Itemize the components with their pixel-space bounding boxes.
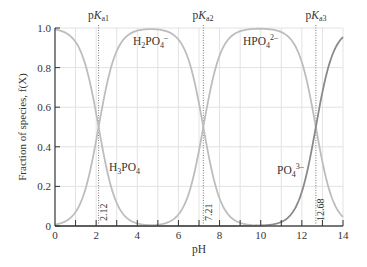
svg-text:0.6: 0.6 xyxy=(37,101,51,113)
pka2-value: 7.21 xyxy=(203,204,214,222)
x-axis-title: pH xyxy=(192,243,206,256)
pka2-label: pKa2 xyxy=(193,9,214,23)
svg-text:8: 8 xyxy=(217,229,223,241)
pka1-value: 2.12 xyxy=(98,204,109,222)
svg-text:0.2: 0.2 xyxy=(37,180,51,192)
species-label-h2po4: H2PO4– xyxy=(133,33,169,50)
svg-text:10: 10 xyxy=(255,229,267,241)
svg-text:14: 14 xyxy=(338,229,350,241)
svg-text:1.0: 1.0 xyxy=(37,22,51,34)
pka-lines xyxy=(99,24,316,226)
svg-text:4: 4 xyxy=(135,229,141,241)
species-fraction-chart: 0246810121400.20.40.60.81.0 pKa1 pKa2 pK… xyxy=(0,0,367,267)
svg-text:0.4: 0.4 xyxy=(37,141,51,153)
svg-text:12: 12 xyxy=(296,229,307,241)
pka3-value: 12.68 xyxy=(315,199,326,222)
svg-text:2: 2 xyxy=(93,229,99,241)
svg-text:0.8: 0.8 xyxy=(37,62,51,74)
pka1-label: pKa1 xyxy=(88,9,109,23)
y-axis-title: Fraction of species, f(X) xyxy=(16,73,29,181)
svg-text:0: 0 xyxy=(46,220,52,232)
species-label-h3po4: H3PO4 xyxy=(109,161,140,176)
svg-text:0: 0 xyxy=(52,229,58,241)
pka3-label: pKa3 xyxy=(306,9,327,23)
svg-text:6: 6 xyxy=(176,229,182,241)
